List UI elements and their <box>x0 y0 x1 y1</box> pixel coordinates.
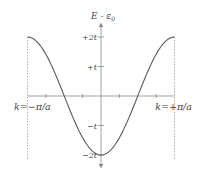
y-tick-label: −t <box>87 122 98 131</box>
dispersion-chart: +2t+t−t−2t E - ε0 k=−π/ak=+π/a <box>0 0 197 171</box>
x-boundary-label: k=+π/a <box>155 101 192 112</box>
y-tick-label: −2t <box>82 151 98 160</box>
x-boundary-label: k=−π/a <box>14 101 51 112</box>
y-axis-label: E - ε0 <box>90 11 115 22</box>
x-boundary-labels: k=−π/ak=+π/a <box>14 101 192 112</box>
y-tick-label: +2t <box>82 33 98 42</box>
y-tick-label: +t <box>87 63 98 72</box>
